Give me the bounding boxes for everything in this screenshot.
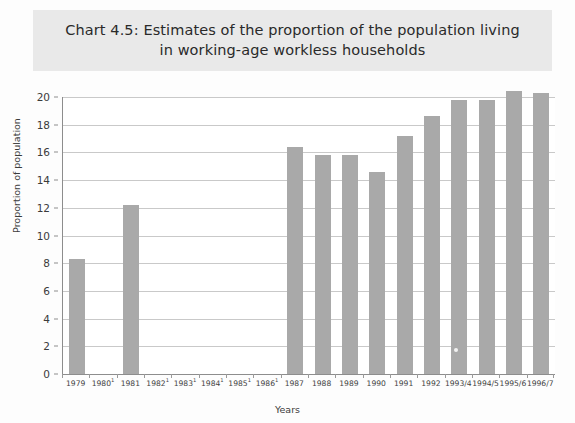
- bar-slot: [418, 97, 445, 374]
- x-tick-mark: [89, 374, 90, 378]
- y-tick-label: 20: [37, 91, 50, 103]
- x-tick-slot: [417, 374, 444, 378]
- bar-slot: [446, 97, 473, 374]
- x-tick-label: 1988: [308, 379, 335, 397]
- bar-slot: [145, 97, 172, 374]
- y-tick-mark: [54, 346, 58, 347]
- x-tick-label: 1992: [417, 379, 444, 397]
- footnote-marker: 1: [275, 377, 278, 383]
- x-tick-label: 1979: [62, 379, 89, 397]
- footnote-marker: 1: [166, 377, 169, 383]
- x-tick-label: 19841: [199, 379, 226, 397]
- bar-slot: [309, 97, 336, 374]
- x-tick-slot: [335, 374, 362, 378]
- x-tick-label: 1989: [335, 379, 362, 397]
- y-tick-label: 10: [37, 230, 50, 242]
- bar-slot: [473, 97, 500, 374]
- x-tick-label: 1990: [363, 379, 390, 397]
- y-axis-title: Proportion of population: [11, 96, 22, 256]
- y-tick-mark: [54, 263, 58, 264]
- bar: [397, 136, 413, 374]
- bar: [342, 155, 358, 374]
- x-tick-label: 19801: [89, 379, 116, 397]
- x-tick-label: 1996/7: [527, 379, 554, 397]
- x-tick-label: 19821: [144, 379, 171, 397]
- x-tick-mark: [527, 374, 528, 378]
- x-tick-mark: [226, 374, 227, 378]
- y-tick-mark: [54, 124, 58, 125]
- footnote-marker: 1: [111, 377, 114, 383]
- x-tick-mark: [171, 374, 172, 378]
- x-tick-mark: [363, 374, 364, 378]
- x-tick-label: 19851: [226, 379, 253, 397]
- chart-figure: Chart 4.5: Estimates of the proportion o…: [0, 0, 575, 423]
- y-tick-mark: [54, 152, 58, 153]
- y-tick-label: 6: [43, 285, 50, 297]
- y-tick-mark: [54, 97, 58, 98]
- bar-slot: [391, 97, 418, 374]
- footnote-marker: 1: [248, 377, 251, 383]
- y-tick-mark: [54, 318, 58, 319]
- bar: [69, 259, 85, 374]
- bars-layer: [63, 97, 555, 374]
- y-tick-label: 2: [43, 340, 50, 352]
- x-tick-mark: [62, 374, 63, 378]
- y-tick-label: 18: [37, 119, 50, 131]
- footnote-marker: 1: [193, 377, 196, 383]
- bar-slot: [364, 97, 391, 374]
- bar-slot: [200, 97, 227, 374]
- x-tick-mark: [281, 374, 282, 378]
- x-tick-mark: [417, 374, 418, 378]
- plot-area: [62, 97, 555, 375]
- x-tick-slot: [445, 374, 472, 378]
- x-tick-mark: [144, 374, 145, 378]
- y-tick-label: 12: [37, 202, 50, 214]
- bar-speck: [454, 348, 458, 352]
- bar: [315, 155, 331, 374]
- x-tick-label: 19831: [171, 379, 198, 397]
- y-tick-mark: [54, 180, 58, 181]
- bar: [369, 172, 385, 374]
- bar: [451, 100, 467, 374]
- x-tick-mark: [253, 374, 254, 378]
- bar-slot: [500, 97, 527, 374]
- x-tick-label: 19861: [253, 379, 280, 397]
- y-tick-label: 16: [37, 146, 50, 158]
- x-tick-slot: [308, 374, 335, 378]
- x-tick-label: 1981: [117, 379, 144, 397]
- y-tick-mark: [54, 207, 58, 208]
- x-tick-mark: [308, 374, 309, 378]
- bar: [533, 93, 549, 374]
- x-tick-slot: [390, 374, 417, 378]
- footnote-marker: 1: [220, 377, 223, 383]
- x-tick-label: 1995/6: [499, 379, 526, 397]
- x-tick-slot: [527, 374, 554, 378]
- x-tick-slot: [363, 374, 390, 378]
- y-tick-label: 8: [43, 257, 50, 269]
- bar-slot: [528, 97, 555, 374]
- x-tick-label: 1987: [281, 379, 308, 397]
- x-tick-slot: [117, 374, 144, 378]
- x-tick-slot: [281, 374, 308, 378]
- x-tick-label: 1993/4: [445, 379, 472, 397]
- y-tick-label: 14: [37, 174, 50, 186]
- y-tick-label: 4: [43, 313, 50, 325]
- bar: [479, 100, 495, 374]
- x-tick-mark: [199, 374, 200, 378]
- x-tick-mark: [499, 374, 500, 378]
- y-tick-mark: [54, 374, 58, 375]
- x-tick-mark: [390, 374, 391, 378]
- x-tick-mark: [117, 374, 118, 378]
- x-tick-mark: [335, 374, 336, 378]
- y-tick-mark: [54, 235, 58, 236]
- x-tick-label: 1991: [390, 379, 417, 397]
- x-tick-slot: [62, 374, 89, 378]
- x-tick-slot: [499, 374, 526, 378]
- bar: [506, 91, 522, 374]
- bar-slot: [282, 97, 309, 374]
- bar-slot: [227, 97, 254, 374]
- chart-title-band: Chart 4.5: Estimates of the proportion o…: [33, 10, 552, 71]
- x-axis-ticks: [62, 374, 554, 378]
- x-tick-mark: [445, 374, 446, 378]
- bar-slot: [172, 97, 199, 374]
